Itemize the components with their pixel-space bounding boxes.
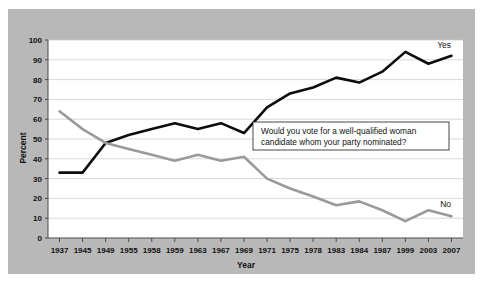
series-label-yes: Yes	[437, 40, 451, 50]
y-tick-label: 90	[33, 56, 42, 65]
x-tick-label: 2007	[443, 246, 461, 255]
x-tick-label: 1958	[143, 246, 161, 255]
x-tick-label: 1987	[373, 246, 391, 255]
x-tick-label: 1937	[51, 246, 69, 255]
x-tick-label: 1983	[327, 246, 345, 255]
annotation-line-1: Would you vote for a well-qualified woma…	[261, 126, 417, 136]
chart-figure: 0102030405060708090100 19371945194919551…	[0, 0, 483, 282]
y-axis-title: Percent	[18, 132, 28, 163]
y-tick-labels: 0102030405060708090100	[29, 36, 43, 243]
x-tick-label: 1969	[235, 246, 253, 255]
x-axis-title: Year	[237, 260, 256, 270]
line-chart: 0102030405060708090100 19371945194919551…	[0, 0, 483, 282]
y-tick-label: 80	[33, 76, 42, 85]
x-tick-label: 1945	[74, 246, 92, 255]
y-tick-label: 60	[33, 115, 42, 124]
x-tick-label: 1975	[281, 246, 299, 255]
annotation-line-2: candidate whom your party nominated?	[261, 137, 407, 147]
series-label-no: No	[440, 199, 451, 209]
x-tick-label: 1984	[350, 246, 368, 255]
y-tick-label: 40	[33, 155, 42, 164]
y-tick-label: 50	[33, 135, 42, 144]
y-tick-label: 10	[33, 214, 42, 223]
x-tick-label: 1955	[120, 246, 138, 255]
y-tick-label: 20	[33, 194, 42, 203]
y-tick-label: 30	[33, 175, 42, 184]
x-tick-label: 1978	[304, 246, 322, 255]
x-tick-label: 1959	[166, 246, 184, 255]
x-tick-label: 1971	[258, 246, 276, 255]
y-tick-label: 70	[33, 95, 42, 104]
annotation-box: Would you vote for a well-qualified woma…	[253, 122, 449, 150]
y-tick-label: 0	[38, 234, 43, 243]
x-tick-label: 1949	[97, 246, 115, 255]
x-tick-labels: 1937194519491955195819591963196719691971…	[51, 246, 461, 255]
x-tick-label: 1967	[212, 246, 230, 255]
y-tick-label: 100	[29, 36, 43, 45]
x-tick-label: 1999	[396, 246, 414, 255]
x-tick-label: 1963	[189, 246, 207, 255]
x-tick-label: 2003	[420, 246, 438, 255]
